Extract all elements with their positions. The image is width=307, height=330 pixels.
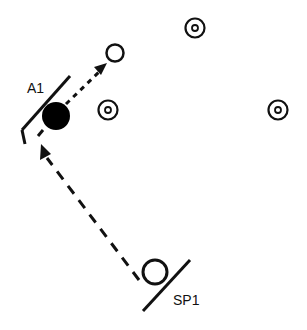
- cone-marker-icon: [269, 101, 288, 120]
- cone-marker-icon: [186, 19, 205, 38]
- player-sp1-icon: [143, 260, 167, 284]
- label-sp1: SP1: [173, 292, 199, 308]
- diagram-canvas: [0, 0, 307, 330]
- player-a1-icon: [42, 102, 70, 130]
- cone-marker-icon: [99, 101, 118, 120]
- dotted-pass-arrow-icon: [66, 63, 107, 104]
- label-a1: A1: [27, 80, 44, 96]
- dashed-run-arrow-icon: [38, 130, 139, 280]
- open-target-icon: [107, 45, 124, 62]
